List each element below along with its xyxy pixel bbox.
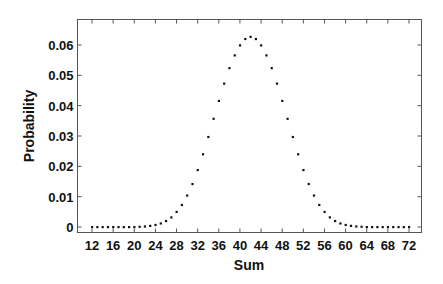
data-point bbox=[329, 216, 331, 218]
data-point bbox=[345, 224, 347, 226]
data-point bbox=[91, 226, 93, 228]
data-point bbox=[186, 194, 188, 196]
data-point bbox=[397, 226, 399, 228]
data-point bbox=[355, 225, 357, 227]
data-point bbox=[213, 118, 215, 120]
data-point bbox=[371, 226, 373, 228]
data-point bbox=[223, 83, 225, 85]
y-tick-label: 0.03 bbox=[48, 129, 73, 144]
y-tick-label: 0.01 bbox=[48, 190, 73, 205]
data-point bbox=[366, 226, 368, 228]
x-tick-label: 12 bbox=[85, 238, 99, 253]
x-tick-label: 44 bbox=[254, 238, 269, 253]
data-point bbox=[149, 225, 151, 227]
data-point bbox=[403, 226, 405, 228]
y-axis-ticks: 00.010.020.030.040.050.06 bbox=[48, 38, 421, 235]
x-tick-label: 40 bbox=[233, 238, 247, 253]
data-point bbox=[339, 222, 341, 224]
y-tick-label: 0.05 bbox=[48, 68, 73, 83]
data-point bbox=[133, 226, 135, 228]
data-point bbox=[144, 225, 146, 227]
x-tick-label: 52 bbox=[296, 238, 310, 253]
x-axis-title: Sum bbox=[234, 257, 264, 273]
y-tick-label: 0.02 bbox=[48, 159, 73, 174]
x-axis-ticks: 12162024283236404448525660646872 bbox=[85, 20, 416, 253]
x-tick-label: 48 bbox=[275, 238, 289, 253]
x-tick-label: 60 bbox=[338, 238, 352, 253]
data-point bbox=[255, 38, 257, 40]
probability-chart: 00.010.020.030.040.050.06 12162024283236… bbox=[0, 0, 443, 284]
data-point bbox=[392, 226, 394, 228]
data-point bbox=[292, 136, 294, 138]
x-tick-label: 24 bbox=[148, 238, 163, 253]
data-point bbox=[123, 226, 125, 228]
data-point bbox=[154, 224, 156, 226]
data-points bbox=[91, 36, 410, 228]
data-point bbox=[276, 83, 278, 85]
data-point bbox=[387, 226, 389, 228]
data-point bbox=[112, 226, 114, 228]
x-tick-label: 36 bbox=[212, 238, 226, 253]
data-point bbox=[128, 226, 130, 228]
data-point bbox=[207, 136, 209, 138]
data-point bbox=[239, 44, 241, 46]
data-point bbox=[281, 100, 283, 102]
data-point bbox=[308, 183, 310, 185]
data-point bbox=[234, 54, 236, 56]
y-tick-label: 0 bbox=[66, 220, 73, 235]
data-point bbox=[202, 153, 204, 155]
y-axis-title: Probability bbox=[21, 90, 37, 163]
data-point bbox=[408, 226, 410, 228]
data-point bbox=[139, 226, 141, 228]
y-tick-label: 0.04 bbox=[48, 99, 74, 114]
x-tick-label: 68 bbox=[381, 238, 395, 253]
data-point bbox=[382, 226, 384, 228]
data-point bbox=[96, 226, 98, 228]
data-point bbox=[334, 220, 336, 222]
data-point bbox=[376, 226, 378, 228]
data-point bbox=[117, 226, 119, 228]
data-point bbox=[181, 204, 183, 206]
data-point bbox=[102, 226, 104, 228]
data-point bbox=[350, 225, 352, 227]
data-point bbox=[318, 204, 320, 206]
data-point bbox=[360, 226, 362, 228]
data-point bbox=[313, 194, 315, 196]
data-point bbox=[302, 169, 304, 171]
data-point bbox=[170, 216, 172, 218]
data-point bbox=[107, 226, 109, 228]
x-tick-label: 32 bbox=[190, 238, 204, 253]
data-point bbox=[176, 211, 178, 213]
x-tick-label: 20 bbox=[127, 238, 141, 253]
data-point bbox=[228, 67, 230, 69]
data-point bbox=[250, 36, 252, 38]
data-point bbox=[286, 118, 288, 120]
y-tick-label: 0.06 bbox=[48, 38, 73, 53]
x-tick-label: 16 bbox=[106, 238, 120, 253]
data-point bbox=[297, 153, 299, 155]
data-point bbox=[265, 54, 267, 56]
x-tick-label: 72 bbox=[402, 238, 416, 253]
x-tick-label: 56 bbox=[317, 238, 331, 253]
data-point bbox=[260, 44, 262, 46]
x-tick-label: 64 bbox=[359, 238, 374, 253]
data-point bbox=[271, 67, 273, 69]
data-point bbox=[160, 222, 162, 224]
data-point bbox=[323, 211, 325, 213]
data-point bbox=[197, 169, 199, 171]
plot-frame bbox=[78, 20, 422, 233]
data-point bbox=[244, 38, 246, 40]
data-point bbox=[191, 183, 193, 185]
x-tick-label: 28 bbox=[169, 238, 183, 253]
data-point bbox=[218, 100, 220, 102]
data-point bbox=[165, 220, 167, 222]
